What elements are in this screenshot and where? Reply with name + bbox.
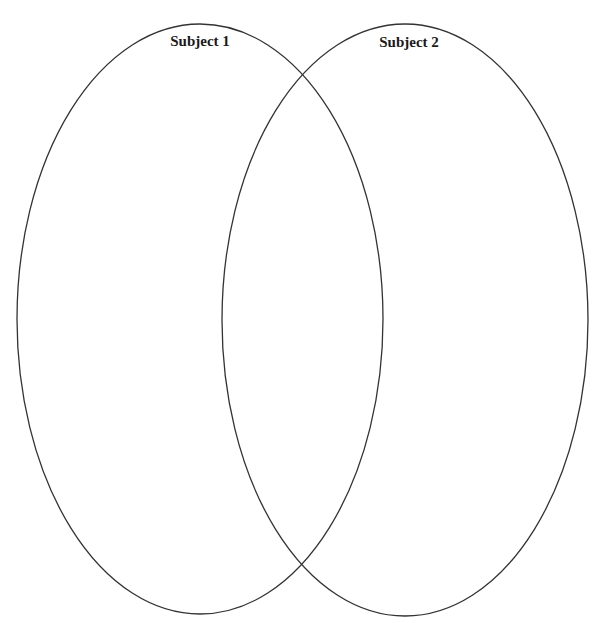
venn-diagram: Subject 1 Subject 2 [0, 0, 600, 623]
venn-svg [0, 0, 600, 623]
subject-1-label: Subject 1 [170, 33, 230, 50]
subject-1-ellipse [17, 24, 383, 614]
subject-2-ellipse [222, 24, 588, 616]
subject-2-label: Subject 2 [379, 34, 439, 51]
